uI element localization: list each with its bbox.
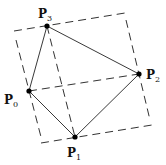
quadrilateral-edges [29,26,139,137]
rectangle-side-bottom [41,125,152,143]
edge-P2-P1 [75,74,139,137]
vertex-p2-dot [136,71,141,76]
edge-P1-P0 [29,91,75,137]
rectangle-side-top [14,13,125,31]
vertex-p3-label: P3 [38,7,52,23]
vertices [26,23,141,139]
diagonal-P0-P2 [29,74,139,91]
edge-P3-P2 [47,26,139,74]
vertex-p0-label: P0 [4,93,18,109]
quadrilateral-diagram: P0P1P2P3 [0,0,166,165]
diagonals [29,26,139,137]
vertex-p1-label: P1 [67,146,81,162]
diagonal-P3-P1 [47,26,75,137]
vertex-p1-dot [72,134,77,139]
vertex-p3-dot [44,23,49,28]
edge-P0-P3 [29,26,47,91]
vertex-p0-dot [26,88,31,93]
bounding-rectangle [14,13,152,143]
vertex-p2-label: P2 [146,68,160,84]
